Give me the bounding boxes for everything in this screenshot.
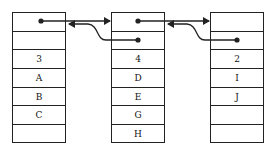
block-1: 3 A B C — [12, 12, 66, 143]
data-cell: I — [211, 69, 263, 88]
prev-pointer-cell — [112, 32, 164, 51]
block-3: 2 I J — [210, 12, 264, 143]
next-pointer-cell — [112, 13, 164, 32]
prev-pointer-cell — [13, 32, 65, 51]
next-pointer-cell — [211, 13, 263, 32]
data-cell: G — [112, 106, 164, 125]
data-cell: A — [13, 69, 65, 88]
data-cell: H — [112, 125, 164, 144]
data-cell: D — [112, 69, 164, 88]
block-2: 4 D E G H — [111, 12, 165, 143]
data-cell: B — [13, 88, 65, 107]
count-cell: 4 — [112, 50, 164, 69]
next-pointer-cell — [13, 13, 65, 32]
data-cell — [211, 125, 263, 144]
count-cell: 3 — [13, 50, 65, 69]
data-cell: J — [211, 88, 263, 107]
count-cell: 2 — [211, 50, 263, 69]
data-cell: E — [112, 88, 164, 107]
data-cell — [211, 106, 263, 125]
data-cell: C — [13, 106, 65, 125]
data-cell — [13, 125, 65, 144]
prev-pointer-cell — [211, 32, 263, 51]
